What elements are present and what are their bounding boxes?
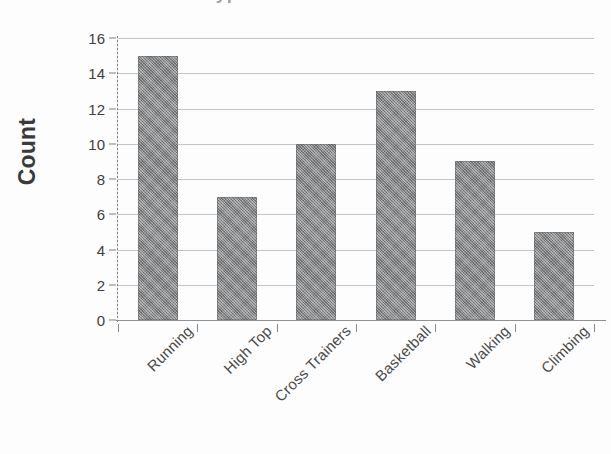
x-axis-labels: RunningHigh TopCross TrainersBasketballW…: [118, 322, 608, 442]
y-tick-label-12: 12: [88, 100, 105, 117]
y-tick-mark-2: [109, 284, 116, 285]
x-tick-label-walking: Walking: [463, 322, 513, 372]
x-tick-label-cross-trainers: Cross Trainers: [271, 322, 354, 405]
gridline-0: [118, 320, 594, 321]
bar-high-top: [217, 197, 257, 320]
y-tick-label-0: 0: [97, 312, 105, 329]
y-tick-mark-4: [109, 249, 116, 250]
chart-page: Type of Athletic Shoe Count 161412108642…: [0, 0, 611, 454]
x-tick-label-running: Running: [143, 322, 196, 375]
y-tick-label-8: 8: [97, 171, 105, 188]
bar-cross-trainers: [296, 144, 336, 320]
bar-running: [138, 56, 178, 320]
y-tick-label-6: 6: [97, 206, 105, 223]
y-axis-title: Count: [14, 97, 41, 207]
y-tick-label-2: 2: [97, 276, 105, 293]
bar-basketball: [376, 91, 416, 320]
y-tick-label-16: 16: [88, 30, 105, 47]
y-tick-mark-8: [109, 179, 116, 180]
y-tick-label-4: 4: [97, 241, 105, 258]
x-tick-label-climbing: Climbing: [538, 322, 592, 376]
y-tick-mark-16: [109, 38, 116, 39]
chart-title: Type of Athletic Shoe: [0, 0, 611, 4]
y-tick-mark-0: [109, 320, 116, 321]
y-tick-label-10: 10: [88, 135, 105, 152]
bar-walking: [455, 161, 495, 320]
y-tick-mark-12: [109, 108, 116, 109]
plot-area: 1614121086420: [118, 38, 594, 320]
y-tick-label-14: 14: [88, 65, 105, 82]
y-tick-mark-10: [109, 143, 116, 144]
chart-title-clipped: Type of Athletic Shoe: [0, 0, 611, 4]
x-tick-label-high-top: High Top: [220, 322, 275, 377]
y-tick-mark-6: [109, 214, 116, 215]
x-tick-label-basketball: Basketball: [371, 322, 433, 384]
y-tick-mark-14: [109, 73, 116, 74]
bar-series: [118, 38, 594, 320]
bar-climbing: [534, 232, 574, 320]
